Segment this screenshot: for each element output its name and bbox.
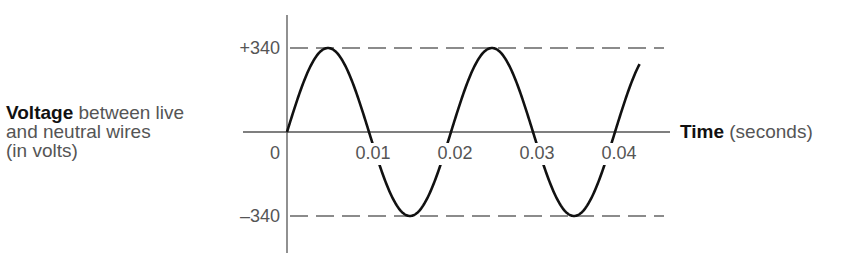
x-tick-0: 0 bbox=[270, 143, 280, 163]
y-tick-plus-340: +340 bbox=[239, 38, 280, 58]
voltage-time-plot: 00.010.020.030.04+340–340 bbox=[0, 0, 848, 255]
x-tick-0.04: 0.04 bbox=[601, 143, 636, 163]
x-tick-0.01: 0.01 bbox=[355, 143, 390, 163]
x-tick-0.03: 0.03 bbox=[519, 143, 554, 163]
y-tick-minus-340: –340 bbox=[240, 206, 280, 226]
x-tick-0.02: 0.02 bbox=[437, 143, 472, 163]
